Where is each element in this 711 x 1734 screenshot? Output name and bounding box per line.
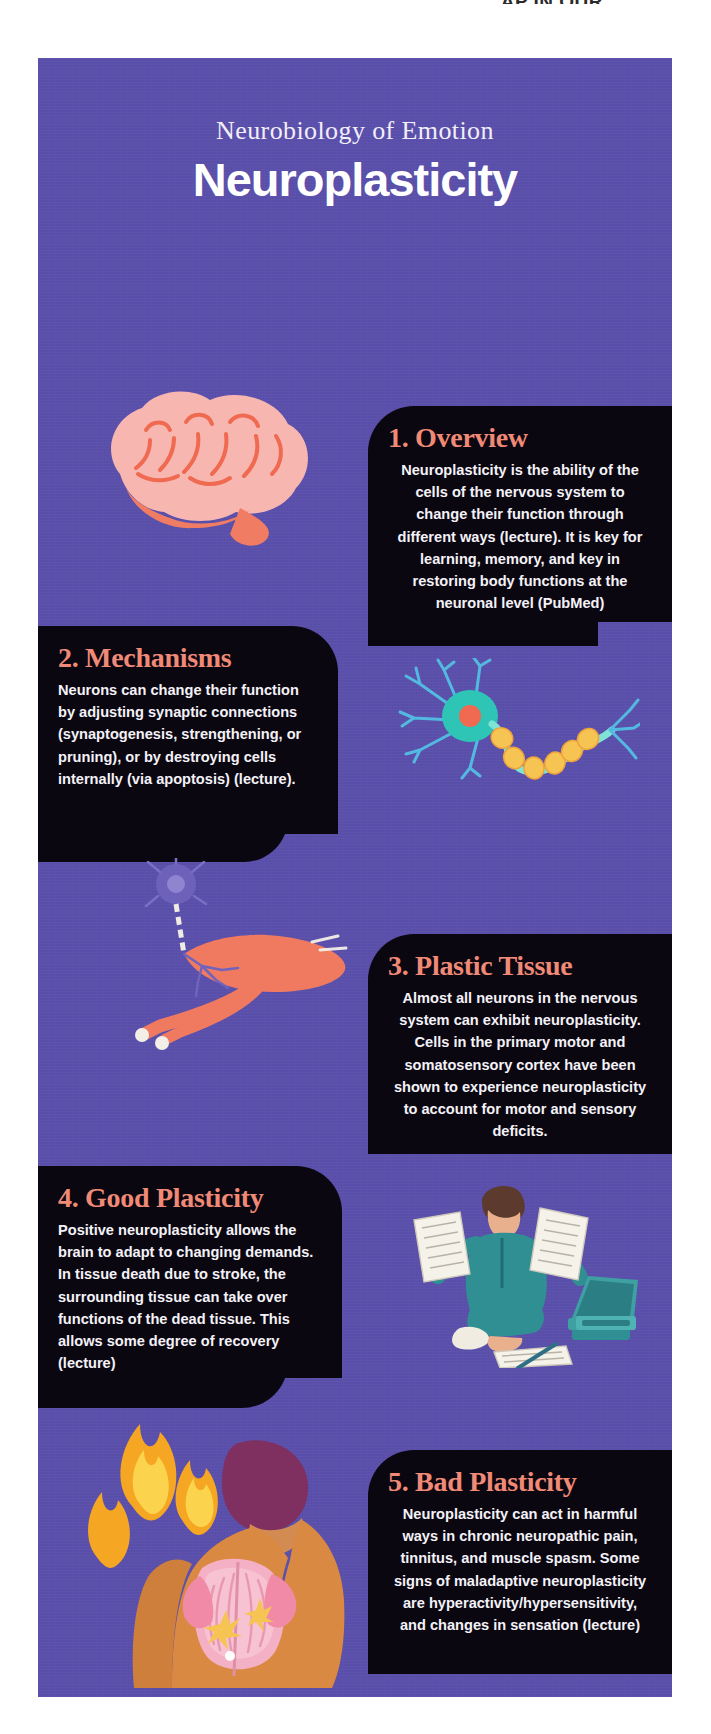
section-heading-plastic-tissue: 3. Plastic Tissue: [388, 950, 652, 982]
section-card-plastic-tissue: 3. Plastic Tissue Almost all neurons in …: [368, 934, 672, 1154]
student-illustration: [390, 1168, 640, 1368]
flames-icon: [88, 1424, 218, 1568]
cut-off-header-text: AP IN OUR: [501, 0, 603, 4]
section-heading-good-plasticity: 4. Good Plasticity: [58, 1182, 322, 1214]
back-pain-illustration: [74, 1388, 364, 1688]
infographic-page: AP IN OUR Neurobiology of Emotion Neurop…: [0, 0, 711, 1734]
section-body-plastic-tissue: Almost all neurons in the nervous system…: [388, 987, 652, 1142]
section-card-mechanisms: 2. Mechanisms Neurons can change their f…: [38, 626, 338, 834]
section-body-bad-plasticity: Neuroplasticity can act in harmful ways …: [388, 1503, 652, 1636]
page-top-margin: AP IN OUR: [0, 0, 711, 58]
section-heading-overview: 1. Overview: [388, 422, 652, 454]
section-body-good-plasticity: Positive neuroplasticity allows the brai…: [58, 1219, 322, 1374]
title-block: Neurobiology of Emotion Neuroplasticity: [38, 116, 672, 207]
section-heading-bad-plasticity: 5. Bad Plasticity: [388, 1466, 652, 1498]
page-title: Neuroplasticity: [38, 152, 672, 207]
brain-illustration: [90, 378, 318, 568]
section-card-overview: 1. Overview Neuroplasticity is the abili…: [368, 406, 672, 622]
kicker-text: Neurobiology of Emotion: [38, 116, 672, 146]
neuron-illustration: [394, 658, 640, 838]
poster-canvas: Neurobiology of Emotion Neuroplasticity: [38, 58, 672, 1697]
muscle-illustration: [98, 858, 358, 1058]
section-card-good-plasticity: 4. Good Plasticity Positive neuroplastic…: [38, 1166, 342, 1378]
section-body-overview: Neuroplasticity is the ability of the ce…: [388, 459, 652, 614]
section-heading-mechanisms: 2. Mechanisms: [58, 642, 318, 674]
section-body-mechanisms: Neurons can change their function by adj…: [58, 679, 318, 790]
section-card-bad-plasticity: 5. Bad Plasticity Neuroplasticity can ac…: [368, 1450, 672, 1674]
